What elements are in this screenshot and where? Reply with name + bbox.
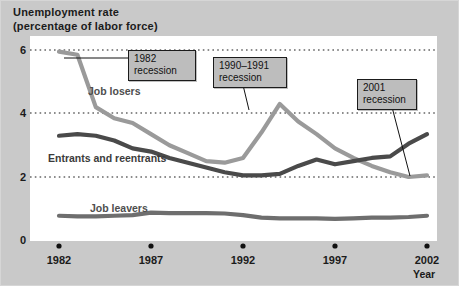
callout-2001-line-1: 2001 (363, 82, 411, 94)
x-tick-label-1992: 1992 (218, 254, 268, 266)
x-tick-label-1982: 1982 (34, 254, 84, 266)
x-tick-2002 (424, 243, 429, 248)
callout-1990-1991-line-1: 1990–1991 (219, 60, 281, 72)
x-tick-1992 (240, 243, 245, 248)
callout-2001-line-2: recession (363, 94, 411, 106)
unemployment-rate-figure: Unemployment rate (percentage of labor f… (0, 0, 459, 286)
y-tick-label-6: 6 (2, 44, 26, 56)
leader-line-1990-1991 (243, 85, 249, 110)
x-tick-label-2002: 2002 (402, 254, 452, 266)
x-tick-1982 (56, 243, 61, 248)
x-tick-label-1997: 1997 (310, 254, 360, 266)
series-label-entrants-line-1: Entrants and (48, 152, 112, 164)
callout-1982-line-1: 1982 (134, 53, 190, 65)
chart-svg (0, 0, 459, 286)
y-tick-label-0: 0 (2, 234, 26, 246)
callout-recession-1982: 1982 recession (128, 50, 196, 81)
y-tick-label-2: 2 (2, 171, 26, 183)
series-label-entrants-line-2: reentrants (115, 152, 166, 164)
x-axis-title: Year (413, 268, 435, 280)
callout-recession-1990-1991: 1990–1991 recession (213, 57, 287, 88)
callout-recession-2001: 2001 recession (357, 79, 417, 110)
x-tick-marks (56, 243, 429, 248)
leader-line-2001 (392, 107, 410, 176)
x-tick-label-1987: 1987 (126, 254, 176, 266)
callout-1982-line-2: recession (134, 65, 190, 77)
y-tick-label-4: 4 (2, 107, 26, 119)
series-label-entrants-and-reentrants: Entrants and reentrants (48, 152, 166, 164)
x-tick-1987 (148, 243, 153, 248)
series-label-job-losers: Job losers (88, 85, 141, 97)
callout-1990-1991-line-2: recession (219, 72, 281, 84)
series-label-job-leavers: Job leavers (90, 202, 148, 214)
x-tick-1997 (332, 243, 337, 248)
